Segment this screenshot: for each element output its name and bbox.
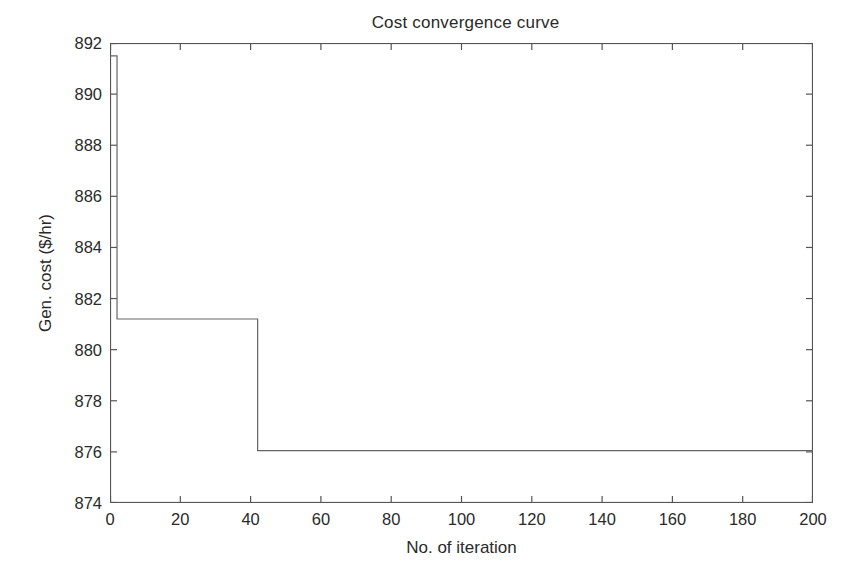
cost-curve-line <box>110 56 813 451</box>
y-tick-label: 880 <box>74 342 102 359</box>
x-tick-label: 200 <box>799 511 827 528</box>
y-tick-label: 890 <box>74 86 102 103</box>
x-tick-label: 140 <box>588 511 616 528</box>
x-tick-label: 160 <box>659 511 687 528</box>
x-tick-label: 180 <box>729 511 757 528</box>
axis-tick-marks <box>111 44 813 503</box>
y-tick-label: 886 <box>74 188 102 205</box>
plot-svg <box>110 43 813 503</box>
y-tick-label: 888 <box>74 137 102 154</box>
x-tick-label: 120 <box>518 511 546 528</box>
y-tick-label: 884 <box>74 239 102 256</box>
axes-frame <box>111 44 813 503</box>
plot-area <box>110 43 813 503</box>
x-axis-label: No. of iteration <box>110 538 813 558</box>
y-tick-label: 874 <box>74 495 102 512</box>
x-tick-label: 100 <box>448 511 476 528</box>
y-axis-label: Gen. cost ($/hr) <box>36 43 56 503</box>
x-tick-label: 60 <box>312 511 330 528</box>
x-tick-label: 80 <box>382 511 400 528</box>
chart-title: Cost convergence curve <box>0 13 857 33</box>
y-tick-label: 882 <box>74 291 102 308</box>
x-tick-label: 0 <box>105 511 114 528</box>
x-tick-label: 20 <box>171 511 189 528</box>
x-axis-tick-labels: 020406080100120140160180200 <box>0 511 857 535</box>
x-tick-label: 40 <box>241 511 259 528</box>
y-tick-label: 878 <box>74 393 102 410</box>
figure-canvas: Cost convergence curve 87487687888088288… <box>0 0 857 577</box>
data-series-group <box>110 56 813 451</box>
y-tick-label: 876 <box>74 444 102 461</box>
y-tick-label: 892 <box>74 35 102 52</box>
